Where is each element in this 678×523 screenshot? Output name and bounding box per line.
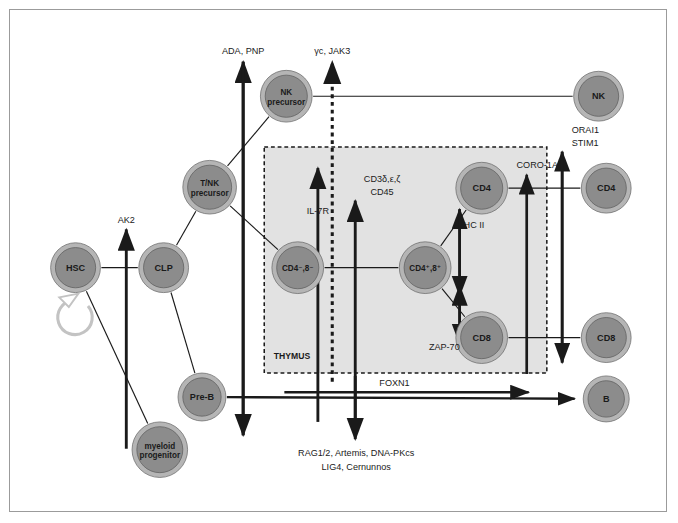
node-hsc[interactable]: HSC [51, 243, 101, 293]
node-nkprec-label: NK [280, 88, 292, 97]
node-cd4p8p[interactable]: CD4⁺,8⁺ [399, 242, 451, 294]
node-bcell-label: B [603, 394, 610, 404]
node-nkprec-label-2: precursor [267, 98, 306, 107]
self-renewal-loop [58, 300, 92, 334]
node-nk[interactable]: NK [574, 71, 624, 121]
node-bcell[interactable]: B [583, 376, 629, 422]
node-cd4thy-label: CD4 [473, 183, 492, 193]
node-preb[interactable]: Pre-B [178, 373, 226, 421]
self-renewal-arrow [58, 294, 92, 335]
label-zap70: ZAP-70 [429, 342, 460, 352]
edge-preb-to-bcell [227, 397, 575, 399]
node-cd4n8n[interactable]: CD4⁻,8⁻ [272, 242, 324, 294]
edge-clp-to-tnk [176, 211, 195, 245]
node-nkprec[interactable]: NKprecursor [260, 70, 312, 122]
node-cd4per-label: CD4 [597, 183, 616, 193]
edge-hsc-to-myeloid [86, 291, 147, 423]
label-cd45: CD45 [370, 187, 393, 197]
node-myeloid-label: myeloid [144, 442, 175, 451]
node-cd8thy-label: CD8 [473, 333, 491, 343]
label-stim1: STIM1 [572, 138, 599, 148]
node-cd8thy[interactable]: CD8 [456, 312, 508, 364]
node-myeloid[interactable]: myeloidprogenitor [132, 422, 188, 478]
node-tnk-label-2: precursor [191, 189, 230, 198]
label-lig4: LIG4, Cernunnos [322, 462, 392, 472]
node-cd4per[interactable]: CD4 [581, 163, 631, 213]
edge-tnk-to-nkprec [228, 117, 269, 166]
diagram-canvas: HSCCLPT/NKprecursorNKprecursormyeloidpro… [10, 10, 666, 511]
node-cd8per-label: CD8 [597, 333, 615, 343]
label-rag: RAG1/2, Artemis, DNA-PKcs [298, 448, 415, 458]
label-ak2: AK2 [118, 215, 135, 225]
node-tnk-label: T/NK [200, 179, 219, 188]
node-clp[interactable]: CLP [139, 243, 189, 293]
node-hsc-label: HSC [66, 263, 86, 273]
node-cd8per[interactable]: CD8 [581, 313, 631, 363]
figure-frame: HSCCLPT/NKprecursorNKprecursormyeloidpro… [9, 9, 667, 512]
node-tnk[interactable]: T/NKprecursor [183, 160, 237, 214]
node-preb-label: Pre-B [190, 392, 215, 402]
node-cd4thy[interactable]: CD4 [456, 162, 508, 214]
label-gc-jak3: γc, JAK3 [314, 46, 350, 56]
label-coro1a: CORO-1A [517, 160, 559, 170]
node-myeloid-label-2: progenitor [140, 451, 181, 460]
label-thymus: THYMUS [274, 351, 311, 361]
edge-clp-to-preb [171, 292, 195, 373]
label-ada-pnp: ADA, PNP [222, 46, 264, 56]
label-il7r: IL-7R [307, 206, 330, 216]
label-orai1: ORAI1 [572, 125, 599, 135]
label-foxn1: FOXN1 [379, 378, 409, 388]
node-nk-label: NK [592, 91, 606, 101]
node-cd4n8n-label: CD4⁻,8⁻ [282, 264, 314, 273]
node-cd4p8p-label: CD4⁺,8⁺ [409, 264, 441, 273]
label-cd3: CD3δ,ε,ζ [364, 174, 400, 184]
label-mhc2: MHC II [456, 220, 484, 230]
node-clp-label: CLP [155, 263, 173, 273]
